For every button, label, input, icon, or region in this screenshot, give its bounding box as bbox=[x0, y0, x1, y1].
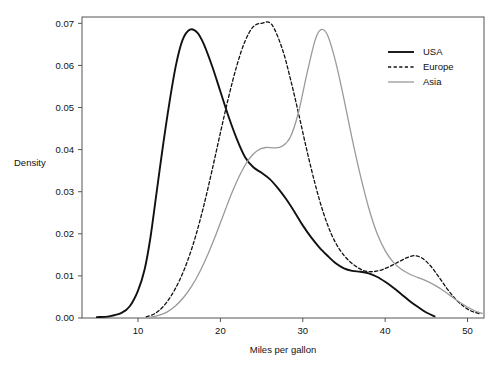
y-tick-label: 0.04 bbox=[56, 144, 75, 155]
x-tick-label: 20 bbox=[215, 325, 226, 336]
x-axis-ticks bbox=[138, 318, 468, 322]
y-axis-ticks bbox=[78, 23, 82, 318]
y-tick-label: 0.07 bbox=[56, 18, 75, 29]
density-curve-asia bbox=[150, 29, 482, 317]
y-tick-label: 0.06 bbox=[56, 60, 75, 71]
plot-canvas: 1020304050 0.000.010.020.030.040.050.060… bbox=[0, 0, 503, 374]
y-tick-label: 0.03 bbox=[56, 186, 75, 197]
x-axis-tick-labels: 1020304050 bbox=[133, 325, 473, 336]
x-tick-label: 30 bbox=[297, 325, 308, 336]
x-tick-label: 10 bbox=[133, 325, 144, 336]
y-tick-label: 0.05 bbox=[56, 102, 75, 113]
legend-label-europe: Europe bbox=[423, 61, 454, 72]
y-tick-label: 0.01 bbox=[56, 270, 75, 281]
legend-label-usa: USA bbox=[423, 46, 443, 57]
x-axis-title: Miles per gallon bbox=[250, 344, 317, 355]
legend: USAEuropeAsia bbox=[388, 46, 454, 87]
y-tick-label: 0.00 bbox=[56, 312, 75, 323]
x-tick-label: 40 bbox=[380, 325, 391, 336]
legend-label-asia: Asia bbox=[423, 76, 442, 87]
y-tick-label: 0.02 bbox=[56, 228, 75, 239]
y-axis-tick-labels: 0.000.010.020.030.040.050.060.07 bbox=[56, 18, 75, 324]
y-axis-title: Density bbox=[14, 157, 46, 168]
x-tick-label: 50 bbox=[462, 325, 473, 336]
density-plot-chart: 1020304050 0.000.010.020.030.040.050.060… bbox=[0, 0, 503, 374]
density-curve-usa bbox=[97, 29, 435, 317]
